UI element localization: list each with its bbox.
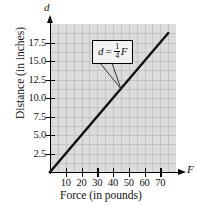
y-axis-symbol: d	[44, 1, 50, 13]
y-axis-arrow-icon	[47, 15, 53, 23]
x-axis-title: Force (in pounds)	[36, 189, 166, 201]
equation-denominator: 4	[114, 51, 120, 60]
grid-line-horizontal	[50, 107, 176, 108]
grid-line-horizontal	[50, 98, 176, 99]
grid-line-horizontal	[50, 154, 176, 155]
grid-line-horizontal	[50, 135, 176, 136]
x-axis-symbol: F	[187, 163, 194, 175]
equation-numerator: 1	[114, 43, 120, 51]
y-axis-tick	[46, 43, 55, 44]
x-axis-tick	[129, 168, 130, 177]
y-axis-title: Distance (in inches)	[14, 0, 26, 148]
x-axis-tick	[145, 168, 146, 177]
grid-line-horizontal	[50, 126, 176, 127]
equation-lhs: d	[98, 45, 104, 57]
x-axis-tick-label: 70	[149, 178, 171, 189]
y-axis-tick	[46, 117, 55, 118]
x-axis-tick	[97, 168, 98, 177]
equation-fraction: 14	[114, 43, 120, 60]
grid-line-horizontal	[50, 89, 176, 90]
equation-rhs: F	[121, 45, 128, 57]
equation-callout: d=14F	[92, 40, 133, 64]
grid-line-horizontal	[50, 33, 176, 34]
y-axis-tick	[46, 98, 55, 99]
grid-line-horizontal	[50, 163, 176, 164]
y-axis-tick-label: 2.5	[18, 149, 46, 160]
y-axis-tick	[46, 154, 55, 155]
grid-line-horizontal	[50, 70, 176, 71]
grid-line-horizontal	[50, 144, 176, 145]
equation-equals: =	[106, 45, 112, 57]
x-axis-tick	[82, 168, 83, 177]
x-axis-tick	[66, 168, 67, 177]
grid-line-horizontal	[50, 117, 176, 118]
y-axis-tick	[46, 135, 55, 136]
y-axis-tick	[46, 61, 55, 62]
grid-line-horizontal	[50, 80, 176, 81]
x-axis-arrow-icon	[178, 169, 186, 175]
x-axis-tick	[160, 168, 161, 177]
y-axis-tick	[46, 80, 55, 81]
x-axis-tick	[113, 168, 114, 177]
chart-figure: 2.55.07.510.012.515.017.510203040506070 …	[0, 0, 198, 206]
